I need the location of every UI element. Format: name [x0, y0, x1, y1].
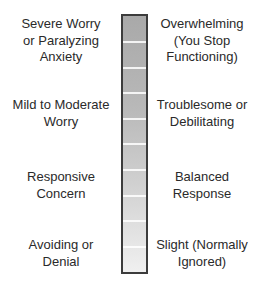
label-line: Debilitating	[141, 114, 262, 131]
label-line: Ignored)	[141, 254, 262, 271]
label-line: Avoiding or	[0, 237, 122, 254]
scale-tick	[123, 92, 146, 94]
left-label-severe: Severe Worry or Paralyzing Anxiety	[0, 16, 122, 66]
label-line: Mild to Moderate	[0, 97, 122, 114]
label-line: Worry	[0, 114, 122, 131]
right-label-overwhelming: Overwhelming (You Stop Functioning)	[141, 16, 262, 66]
label-line: Functioning)	[141, 49, 262, 66]
label-line: Balanced	[141, 169, 262, 186]
label-line: Denial	[0, 254, 122, 271]
label-line: Anxiety	[0, 49, 122, 66]
left-label-avoiding: Avoiding or Denial	[0, 237, 122, 270]
right-label-slight: Slight (Normally Ignored)	[141, 237, 262, 270]
label-line: (You Stop	[141, 33, 262, 50]
left-label-responsive: Responsive Concern	[0, 169, 122, 202]
right-label-troublesome: Troublesome or Debilitating	[141, 97, 262, 130]
label-line: Severe Worry	[0, 16, 122, 33]
label-line: Concern	[0, 186, 122, 203]
label-line: Responsive	[0, 169, 122, 186]
scale-tick	[123, 220, 146, 222]
label-line: Overwhelming	[141, 16, 262, 33]
scale-tick	[123, 143, 146, 145]
right-label-balanced: Balanced Response	[141, 169, 262, 202]
scale-tick	[123, 67, 146, 69]
label-line: or Paralyzing	[0, 33, 122, 50]
left-label-mild: Mild to Moderate Worry	[0, 97, 122, 130]
label-line: Slight (Normally	[141, 237, 262, 254]
label-line: Troublesome or	[141, 97, 262, 114]
label-line: Response	[141, 186, 262, 203]
